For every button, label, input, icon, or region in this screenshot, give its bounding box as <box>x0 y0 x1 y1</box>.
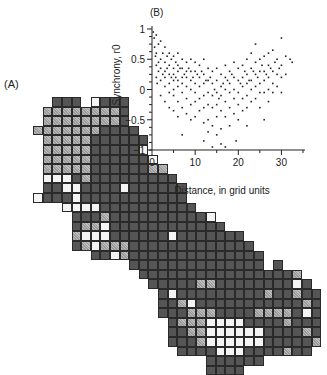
grid-cell <box>177 251 187 261</box>
grid-cell <box>264 347 274 357</box>
grid-cell <box>206 289 216 299</box>
grid-cell <box>206 241 216 251</box>
data-point <box>158 71 160 73</box>
data-point <box>225 101 227 103</box>
grid-cell <box>139 241 149 251</box>
grid-cell <box>168 212 178 222</box>
grid-cell <box>129 231 139 241</box>
data-point <box>257 77 259 79</box>
grid-cell <box>206 318 216 328</box>
grid-cell <box>120 212 130 222</box>
data-point <box>216 104 218 106</box>
grid-cell <box>129 222 139 232</box>
panel-b-label: (B) <box>150 7 163 18</box>
data-point <box>205 80 207 82</box>
grid-cell <box>110 203 120 213</box>
grid-cell <box>187 289 197 299</box>
data-point <box>281 77 283 79</box>
grid-cell <box>302 299 312 309</box>
grid-cell <box>187 318 197 328</box>
grid-cell <box>110 241 120 251</box>
data-point <box>199 65 201 67</box>
data-point <box>268 101 270 103</box>
data-point <box>268 65 270 67</box>
data-point <box>166 55 168 57</box>
data-point <box>155 55 157 57</box>
data-point <box>153 37 155 39</box>
data-point <box>233 77 235 79</box>
grid-cell <box>177 318 187 328</box>
grid-cell <box>283 318 293 328</box>
data-point <box>220 74 222 76</box>
grid-cell <box>148 203 158 213</box>
grid-cell <box>235 318 245 328</box>
grid-cell <box>235 270 245 280</box>
data-point <box>173 95 175 97</box>
data-point <box>259 71 261 73</box>
grid-cell <box>177 308 187 318</box>
grid-cell <box>177 203 187 213</box>
grid-cell <box>158 289 168 299</box>
data-point <box>186 113 188 115</box>
grid-cell <box>196 251 206 261</box>
grid-cell <box>283 270 293 280</box>
data-point <box>181 107 183 109</box>
data-point <box>237 80 239 82</box>
data-point <box>246 74 248 76</box>
data-point <box>268 89 270 91</box>
grid-cell <box>273 347 283 357</box>
grid-cell <box>168 270 178 280</box>
grid-cell <box>148 279 158 289</box>
data-point <box>207 119 209 121</box>
data-point <box>212 95 214 97</box>
data-point <box>216 80 218 82</box>
grid-cell <box>206 212 216 222</box>
data-point <box>242 98 244 100</box>
data-point <box>175 77 177 79</box>
data-point <box>276 86 278 88</box>
grid-cell <box>139 270 149 280</box>
grid-cell <box>273 308 283 318</box>
grid-cell <box>283 308 293 318</box>
y-axis-title: Synchrony, r0 <box>111 44 122 105</box>
data-point <box>225 116 227 118</box>
data-point <box>194 71 196 73</box>
data-point <box>179 68 181 70</box>
grid-cell <box>168 279 178 289</box>
data-point <box>156 83 158 85</box>
tick-label: 1 <box>139 24 145 35</box>
grid-cell <box>254 270 264 280</box>
data-point <box>281 92 283 94</box>
grid-cell <box>225 337 235 347</box>
grid-cell <box>177 289 187 299</box>
data-point <box>248 80 250 82</box>
data-point <box>274 61 276 63</box>
grid-cell <box>283 279 293 289</box>
grid-cell <box>206 270 216 280</box>
tick-label: 0 <box>139 85 145 96</box>
data-point <box>212 71 214 73</box>
grid-cell <box>81 231 91 241</box>
grid-cell <box>264 318 274 328</box>
tick-label: 10 <box>190 157 202 168</box>
grid-cell <box>254 356 264 366</box>
data-point <box>154 46 156 48</box>
data-point <box>233 89 235 91</box>
tick-label: 0 <box>149 157 155 168</box>
grid-cell <box>206 308 216 318</box>
grid-cell <box>283 289 293 299</box>
grid-cell <box>120 222 130 232</box>
data-point <box>231 74 233 76</box>
data-point <box>246 58 248 60</box>
data-point <box>164 61 166 63</box>
data-point <box>240 83 242 85</box>
grid-cell <box>177 279 187 289</box>
data-point <box>229 107 231 109</box>
grid-cell <box>235 241 245 251</box>
x-axis-title: Distance, in grid units <box>174 185 270 196</box>
grid-cell <box>148 231 158 241</box>
grid-cell <box>302 279 312 289</box>
data-point <box>291 61 293 63</box>
grid-cell <box>129 260 139 270</box>
grid-cell <box>244 347 254 357</box>
